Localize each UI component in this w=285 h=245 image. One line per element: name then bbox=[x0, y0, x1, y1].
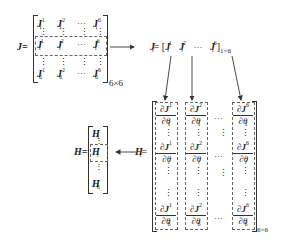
j-vdots-upper-2: ⋮ bbox=[59, 27, 68, 37]
hi-entry-1-6: ∂J1 ∂θ6 bbox=[156, 204, 176, 227]
hi-vdots-6c: ⋮ bbox=[241, 188, 250, 198]
hi-entry-2-i: ∂J2 ∂θi bbox=[186, 142, 206, 165]
hi-vdots-1c: ⋮ bbox=[164, 188, 173, 198]
h-vdots-upper: ⋮ bbox=[95, 136, 103, 146]
j-vdots-lower-3: ⋮ bbox=[80, 57, 89, 67]
j-vdots-upper-4: ⋮ bbox=[96, 27, 105, 37]
h-matrix-label: H= bbox=[74, 147, 87, 157]
j-hdots-6: ··· bbox=[77, 68, 86, 78]
j-matrix-label: J= bbox=[17, 42, 28, 52]
j-vdots-lower-1: ⋮ bbox=[39, 57, 48, 67]
hi-vdots-6b: ⋮ bbox=[241, 166, 250, 176]
hi-vdots-mid-b: ⋮ bbox=[219, 168, 228, 178]
hi-hdots-6: ··· bbox=[214, 213, 223, 223]
hi-hdots-1: ··· bbox=[214, 113, 223, 123]
h-entry-i: Hi bbox=[92, 147, 98, 158]
h-vdots-lower: ⋮ bbox=[95, 162, 103, 172]
hi-entry-1-1: ∂J1 ∂θ1 bbox=[156, 104, 176, 127]
j-matrix-size: 6×6 bbox=[109, 78, 123, 88]
hi-vdots-mid-a: ⋮ bbox=[219, 128, 228, 138]
j-cell-6-1: J61 bbox=[37, 69, 45, 80]
hi-entry-6-1: ∂J6 ∂θ1 bbox=[233, 104, 253, 127]
arrow-ji1-to-col1 bbox=[165, 56, 171, 100]
hi-entry-6-6: ∂J6 ∂θ6 bbox=[233, 204, 253, 227]
hi-matrix-size: 6×6 bbox=[257, 225, 268, 235]
j-vdots-lower-2: ⋮ bbox=[59, 57, 68, 67]
hi-vdots-2c: ⋮ bbox=[194, 188, 203, 198]
j-vdots-upper-3: ⋮ bbox=[80, 27, 89, 37]
ji-row-vector: Ji= [Ji1 Ji2 ··· Ji6]1×6 bbox=[150, 42, 231, 53]
arrow-ji6-to-col6 bbox=[232, 56, 241, 100]
j-cell-i-2: Ji2 bbox=[57, 40, 64, 51]
j-cell-6-6: J66 bbox=[93, 69, 101, 80]
hi-matrix-label: Hi= bbox=[135, 147, 147, 158]
hi-entry-2-6: ∂J2 ∂θ6 bbox=[186, 204, 206, 227]
hi-vdots-2a: ⋮ bbox=[194, 128, 203, 138]
hi-entry-1-i: ∂J1 ∂θi bbox=[156, 142, 176, 165]
h-entry-6: H6 bbox=[92, 179, 100, 190]
j-cell-6-2: J62 bbox=[57, 69, 65, 80]
j-cell-i-1: Ji1 bbox=[37, 40, 44, 51]
hi-vdots-1b: ⋮ bbox=[164, 166, 173, 176]
hi-vdots-2b: ⋮ bbox=[194, 166, 203, 176]
hi-vdots-6a: ⋮ bbox=[241, 128, 250, 138]
ji-size: 1×6 bbox=[220, 47, 231, 55]
j-vdots-lower-4: ⋮ bbox=[96, 57, 105, 67]
j-vdots-upper-1: ⋮ bbox=[39, 27, 48, 37]
hi-entry-2-1: ∂J2 ∂θ1 bbox=[186, 104, 206, 127]
j-hdots-i: ··· bbox=[77, 39, 86, 49]
hi-vdots-1a: ⋮ bbox=[164, 128, 173, 138]
hi-hdots-i: ··· bbox=[214, 151, 223, 161]
hi-entry-6-i: ∂J6 ∂θi bbox=[233, 142, 253, 165]
j-cell-i-6: Ji6 bbox=[93, 40, 100, 51]
